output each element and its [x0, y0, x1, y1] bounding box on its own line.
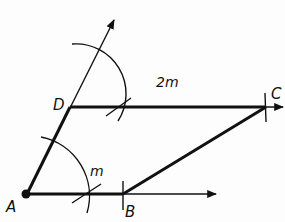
label-point-b: B — [125, 203, 135, 221]
label-point-d: D — [53, 96, 65, 114]
construction-diagram: A B C D 2m m — [0, 0, 285, 222]
segment-ad — [27, 107, 70, 194]
diagram-svg: A B C D 2m m — [0, 0, 285, 222]
tick-c — [265, 93, 266, 122]
point-a-dot — [22, 190, 31, 199]
label-point-a: A — [5, 198, 16, 216]
label-point-c: C — [271, 85, 282, 103]
construction-arc-d — [72, 44, 126, 121]
segment-bc — [123, 107, 266, 194]
label-measure-ab: m — [90, 163, 104, 179]
label-measure-dc: 2m — [156, 74, 179, 90]
